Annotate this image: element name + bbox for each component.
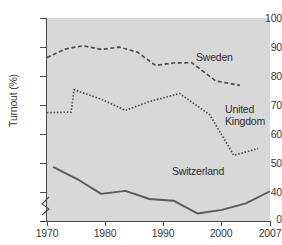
series-label-united-kingdom: United Kingdom — [225, 104, 265, 127]
series-line-switzerland — [53, 167, 270, 214]
series-label-switzerland: Switzerland — [172, 166, 224, 178]
series-label-sweden: Sweden — [196, 52, 233, 64]
turnout-line-chart: 100 90 80 70 60 50 40 0 Turnout (%) 1970… — [0, 0, 282, 245]
